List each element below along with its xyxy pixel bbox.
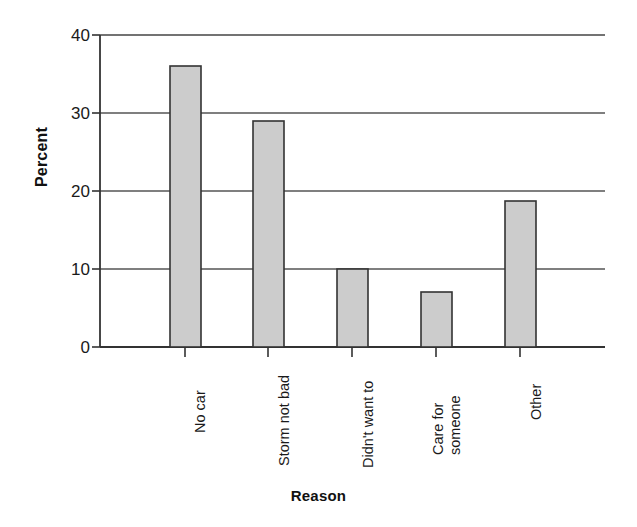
x-tick-label-storm-not-bad: Storm not bad (276, 375, 293, 466)
bar-no-car (170, 66, 201, 347)
bar-chart: Percent Reason 40 30 20 10 0 (0, 0, 637, 527)
y-tick-marks (92, 35, 100, 347)
bars (170, 66, 536, 347)
bar-storm-not-bad (253, 121, 284, 347)
x-tick-marks (185, 347, 520, 357)
bar-care-for-someone (421, 292, 452, 347)
x-tick-label-didnt-want-to: Didn't want to (360, 381, 377, 468)
x-tick-label-no-car: No car (192, 390, 209, 433)
x-tick-label-other: Other (528, 384, 545, 420)
bar-didnt-want-to (337, 269, 368, 347)
x-tick-label-care-for-someone: Care for someone (430, 395, 464, 455)
bar-other (505, 201, 536, 347)
plot-area (0, 0, 637, 527)
